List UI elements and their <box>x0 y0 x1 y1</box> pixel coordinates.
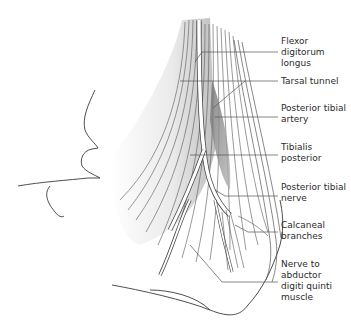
label-flexor-digitorum-longus: Flexor digitorum longus <box>281 36 351 69</box>
label-tibialis-posterior: Tibialis posterior <box>281 142 321 164</box>
tibialis-posterior-muscle <box>210 80 230 190</box>
label-calcaneal-branches: Calcaneal branches <box>281 220 325 242</box>
heel-tendon <box>234 40 281 282</box>
label-nerve-to-abductor-digiti-quinti: Nerve to abductor digiti quinti muscle <box>281 259 332 303</box>
label-posterior-tibial-artery: Posterior tibial artery <box>281 103 346 125</box>
label-tarsal-tunnel: Tarsal tunnel <box>281 76 338 87</box>
label-posterior-tibial-nerve: Posterior tibial nerve <box>281 182 346 204</box>
